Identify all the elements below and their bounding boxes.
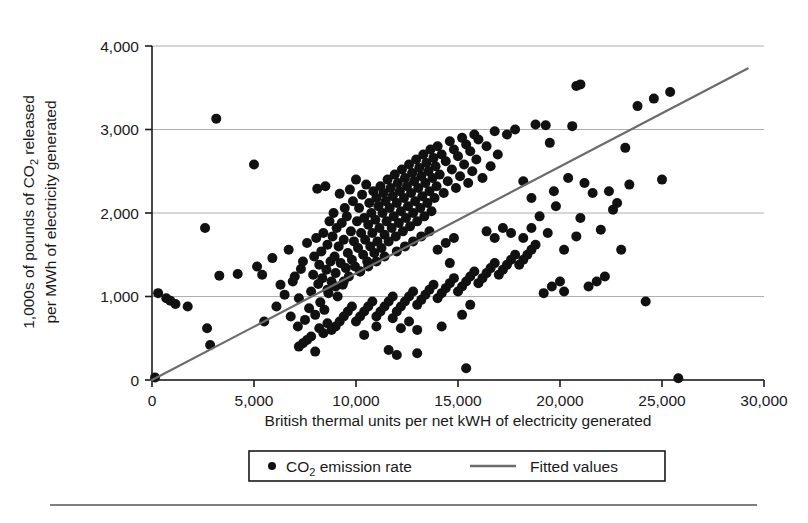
scatter-point <box>280 290 290 300</box>
scatter-point <box>567 121 577 131</box>
scatter-point <box>641 297 651 307</box>
scatter-point <box>588 188 598 198</box>
scatter-point <box>233 269 243 279</box>
y-axis-title-line2: per MWh of electricity generated <box>42 100 59 323</box>
scatter-point <box>471 155 481 165</box>
y-tick-label: 4,000 <box>100 38 139 55</box>
x-tick-label: 15,000 <box>434 392 482 409</box>
x-tick-label: 0 <box>148 392 157 409</box>
scatter-point <box>457 310 467 320</box>
scatter-point <box>433 245 443 255</box>
scatter-point <box>367 297 377 307</box>
scatter-point <box>541 120 551 130</box>
scatter-point <box>257 270 267 280</box>
y-axis-title: 1,000s of pounds of CO2 released per MWh… <box>20 95 59 329</box>
scatter-point <box>318 228 328 238</box>
scatter-point <box>329 208 339 218</box>
y-tick-label: 2,000 <box>100 205 139 222</box>
y-axis-title-line1-main: 1,000s of pounds of CO <box>20 165 37 329</box>
scatter-point <box>437 322 447 332</box>
scatter-point <box>575 79 585 89</box>
scatter-point <box>333 292 343 302</box>
scatter-point <box>302 238 312 248</box>
scatter-point <box>443 176 453 186</box>
scatter-point <box>473 135 483 145</box>
y-axis-ticks <box>145 46 152 380</box>
scatter-point <box>616 245 626 255</box>
scatter-point <box>535 211 545 221</box>
scatter-point <box>506 228 516 238</box>
scatter-point <box>551 201 561 211</box>
scatter-point <box>441 156 451 166</box>
scatter-point <box>300 315 310 325</box>
scatter-plot: 01,0002,0003,0004,000 05,00010,00015,000… <box>0 0 808 523</box>
x-tick-label: 20,000 <box>536 392 584 409</box>
scatter-point <box>357 190 367 200</box>
scatter-point <box>539 288 549 298</box>
scatter-point <box>673 373 683 383</box>
x-tick-label: 5,000 <box>235 392 274 409</box>
x-axis-tick-labels: 05,00010,00015,00020,00025,00030,000 <box>148 392 788 409</box>
scatter-point <box>345 185 355 195</box>
scatter-point <box>211 114 221 124</box>
scatter-point <box>392 350 402 360</box>
scatter-point <box>482 226 492 236</box>
scatter-point <box>388 313 398 323</box>
scatter-point <box>486 161 496 171</box>
scatter-point <box>490 233 500 243</box>
scatter-point <box>396 323 406 333</box>
scatter-point <box>202 323 212 333</box>
legend[interactable]: CO2 emission rate Fitted values <box>249 451 665 481</box>
scatter-point <box>447 165 457 175</box>
scatter-point <box>633 101 643 111</box>
scatter-point <box>467 166 477 176</box>
x-axis-ticks <box>152 380 764 387</box>
scatter-point <box>451 183 461 193</box>
scatter-point <box>351 175 361 185</box>
scatter-point <box>445 258 455 268</box>
scatter-point <box>412 348 422 358</box>
scatter-point <box>600 271 610 281</box>
scatter-point <box>555 276 565 286</box>
y-tick-label: 3,000 <box>100 121 139 138</box>
y-axis-tick-labels: 01,0002,0003,0004,000 <box>100 38 139 389</box>
scatter-point <box>200 223 210 233</box>
scatter-point <box>461 363 471 373</box>
scatter-point-series <box>150 79 683 383</box>
fitted-values-line <box>152 69 748 380</box>
scatter-point <box>170 299 180 309</box>
scatter-point <box>408 286 418 296</box>
scatter-point <box>435 170 445 180</box>
scatter-point <box>463 178 473 188</box>
scatter-point <box>624 180 634 190</box>
scatter-point <box>649 94 659 104</box>
scatter-point <box>490 258 500 268</box>
legend-entry-fitted-values[interactable]: Fitted values <box>530 458 618 475</box>
x-tick-label: 30,000 <box>740 392 788 409</box>
scatter-point <box>388 292 398 302</box>
scatter-point <box>267 253 277 263</box>
scatter-point <box>620 143 630 153</box>
scatter-point <box>335 189 345 199</box>
scatter-point <box>354 203 364 213</box>
scatter-point <box>339 235 349 245</box>
x-axis-title: British thermal units per net kWH of ele… <box>265 412 652 429</box>
scatter-point <box>465 300 475 310</box>
y-axis-title-line1-tail: released <box>20 95 37 159</box>
scatter-point <box>477 173 487 183</box>
scatter-point <box>563 173 573 183</box>
scatter-point <box>331 268 341 278</box>
scatter-point <box>531 119 541 129</box>
scatter-point <box>319 305 329 315</box>
scatter-point <box>371 322 381 332</box>
scatter-point <box>284 245 294 255</box>
scatter-point <box>271 302 281 312</box>
scatter-point <box>545 138 555 148</box>
scatter-point <box>320 181 330 191</box>
scatter-point <box>493 150 503 160</box>
scatter-point <box>310 310 320 320</box>
scatter-point <box>549 186 559 196</box>
scatter-point <box>347 302 357 312</box>
scatter-point <box>502 130 512 140</box>
scatter-point <box>518 233 528 243</box>
